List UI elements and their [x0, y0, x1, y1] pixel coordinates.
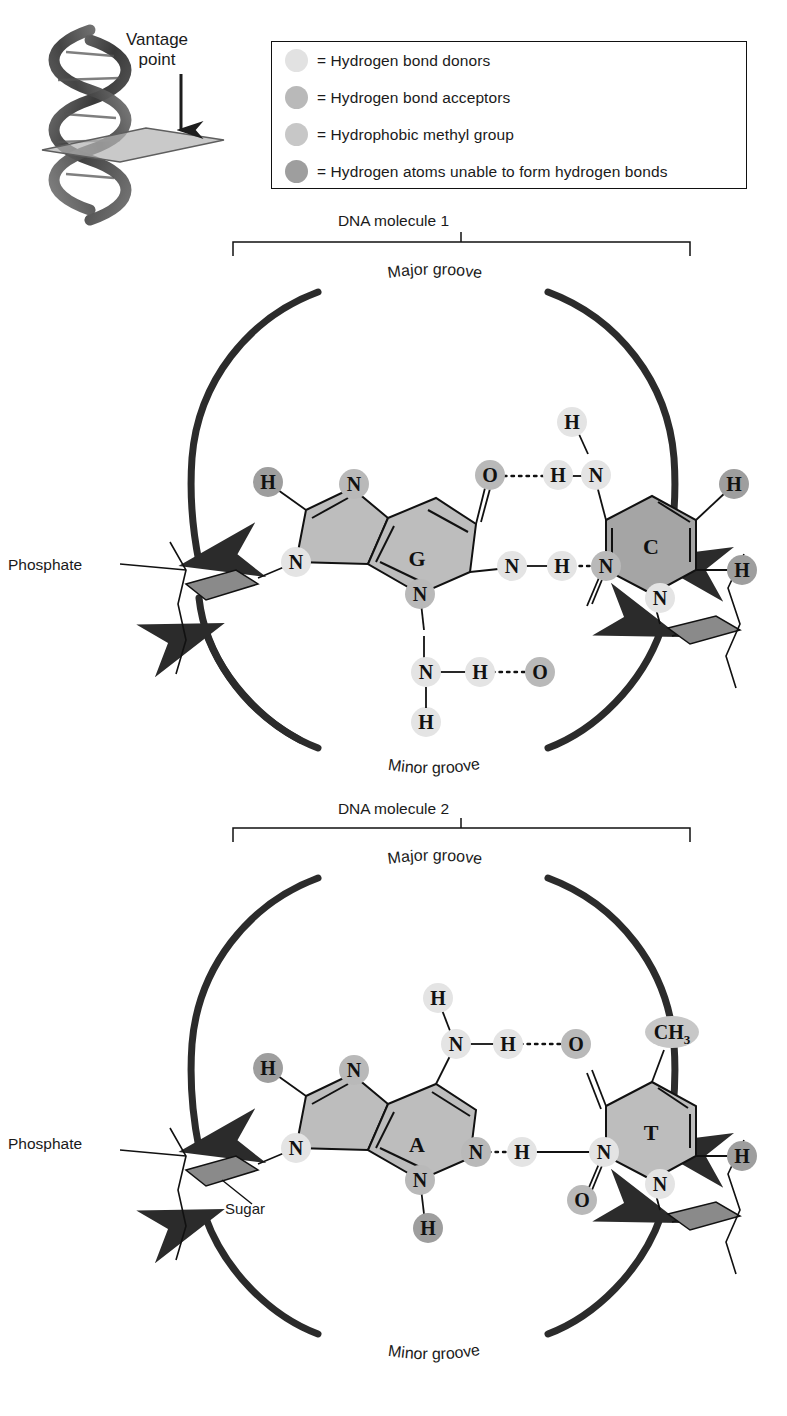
dna-molecule-2-panel: Major groove Minor groove: [0, 818, 787, 1378]
legend-item-hydrogen-bond-acceptors: = Hydrogen bond acceptors: [272, 79, 746, 116]
sugar-shape-right-1: [668, 616, 740, 644]
base-letter-C: C: [643, 534, 659, 559]
svg-text:N: N: [413, 583, 428, 605]
legend-swatch-donor: [285, 49, 308, 72]
svg-text:H: H: [564, 411, 580, 433]
svg-text:O: O: [532, 661, 548, 683]
svg-text:H: H: [500, 1033, 516, 1055]
svg-text:H: H: [418, 711, 434, 733]
minor-groove-label-1: Minor groove: [387, 755, 481, 776]
sugar-shape-right-2: [668, 1202, 740, 1230]
dna-molecule-2-title: DNA molecule 2: [0, 800, 787, 818]
svg-text:O: O: [574, 1189, 590, 1211]
sugar-shape-left-2: [186, 1156, 258, 1186]
dna-double-helix-icon: [54, 30, 126, 220]
svg-text:N: N: [653, 1173, 668, 1195]
svg-text:O: O: [568, 1033, 584, 1055]
svg-text:H: H: [734, 559, 750, 581]
svg-text:N: N: [597, 1141, 612, 1163]
svg-text:H: H: [554, 555, 570, 577]
svg-text:O: O: [482, 464, 498, 486]
backbone-left-1: [120, 542, 186, 674]
legend-label-acceptor: = Hydrogen bond acceptors: [317, 89, 510, 107]
legend-item-hydrogen-bond-donors: = Hydrogen bond donors: [272, 42, 746, 79]
vantage-point-label: Vantage point: [126, 30, 188, 69]
major-groove-label-1: Major groove: [386, 260, 483, 281]
svg-text:H: H: [550, 464, 566, 486]
svg-text:N: N: [289, 551, 304, 573]
svg-text:N: N: [469, 1141, 484, 1163]
svg-text:H: H: [260, 1057, 276, 1079]
svg-text:N: N: [413, 1169, 428, 1191]
legend-box: = Hydrogen bond donors = Hydrogen bond a…: [271, 41, 747, 189]
svg-text:H: H: [726, 473, 742, 495]
svg-text:H: H: [430, 987, 446, 1009]
svg-text:N: N: [347, 473, 362, 495]
legend-item-nonbonding-hydrogens: = Hydrogen atoms unable to form hydrogen…: [272, 153, 746, 190]
legend-item-hydrophobic-methyl-group: = Hydrophobic methyl group: [272, 116, 746, 153]
svg-text:N: N: [589, 464, 604, 486]
methyl-group-label: CH3: [645, 1016, 699, 1048]
legend-swatch-nonbonding-h: [285, 160, 308, 183]
legend-label-nonbonding-h: = Hydrogen atoms unable to form hydrogen…: [317, 163, 668, 181]
adenine-ring-system: [296, 1074, 476, 1180]
svg-text:N: N: [599, 555, 614, 577]
at-hbond-lines: [468, 1044, 592, 1152]
minor-groove-label-2: Minor groove: [387, 1341, 481, 1362]
legend-label-methyl: = Hydrophobic methyl group: [317, 126, 514, 144]
svg-text:H: H: [420, 1217, 436, 1239]
svg-text:N: N: [419, 661, 434, 683]
dna-base-pairing-figure: Vantage point = Hydrogen bond donors = H…: [0, 0, 787, 1416]
svg-text:N: N: [347, 1059, 362, 1081]
dna-molecule-1-title: DNA molecule 1: [0, 212, 787, 230]
svg-text:N: N: [653, 587, 668, 609]
guanine-ring-system: [296, 488, 476, 594]
svg-text:H: H: [472, 661, 488, 683]
dna-molecule-1-panel: Major groove Minor groove: [0, 232, 787, 792]
legend-swatch-acceptor: [285, 86, 308, 109]
svg-text:H: H: [734, 1145, 750, 1167]
base-letter-G: G: [408, 546, 425, 571]
legend-swatch-methyl: [285, 123, 308, 146]
svg-text:N: N: [505, 555, 520, 577]
dna-molecule-2-bracket: [233, 818, 690, 842]
svg-text:H: H: [514, 1141, 530, 1163]
svg-text:H: H: [260, 471, 276, 493]
svg-text:N: N: [289, 1137, 304, 1159]
legend-label-donor: = Hydrogen bond donors: [317, 52, 490, 70]
base-letter-T: T: [644, 1120, 659, 1145]
sugar-leader-line: [222, 1180, 252, 1204]
dna-molecule-1-bracket: [233, 232, 690, 256]
major-groove-label-2: Major groove: [386, 846, 483, 867]
base-letter-A: A: [409, 1132, 425, 1157]
backbone-left-2: [120, 1128, 186, 1260]
svg-text:N: N: [449, 1033, 464, 1055]
